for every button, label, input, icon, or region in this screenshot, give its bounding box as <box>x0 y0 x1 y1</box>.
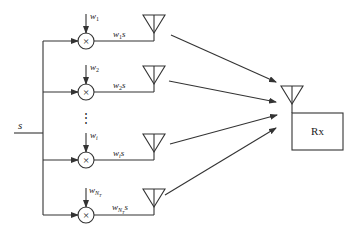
weighted-signal-label: wis <box>113 148 125 159</box>
branch-2: w2 × w2s <box>43 62 276 102</box>
input-label: s <box>18 119 22 131</box>
antenna-icon <box>143 66 165 92</box>
weighted-signal-label: w1s <box>113 29 126 40</box>
ellipsis-dots: ⋮ <box>80 111 92 125</box>
weight-label: w1 <box>90 11 99 22</box>
receiver: Rx <box>281 86 343 150</box>
svg-text:×: × <box>83 86 89 98</box>
antenna-icon <box>143 134 165 160</box>
input-signal: s <box>14 119 43 133</box>
beamforming-diagram: s w1 × w1s w2 × w2s ⋮ <box>0 0 355 234</box>
weighted-signal-label: w2s <box>113 80 126 91</box>
branch-1: w1 × w1s <box>43 11 276 82</box>
weight-label: w2 <box>90 62 99 73</box>
svg-text:×: × <box>83 35 89 47</box>
weighted-signal-label: wNTs <box>112 202 129 215</box>
svg-text:×: × <box>83 154 89 166</box>
branch-i: wi × wis <box>43 115 277 168</box>
antenna-icon <box>143 189 165 215</box>
weight-label: wNT <box>89 185 102 198</box>
antenna-icon <box>143 15 165 41</box>
weight-label: wi <box>90 130 98 141</box>
antenna-icon <box>281 86 303 113</box>
receiver-label: Rx <box>311 125 324 137</box>
svg-text:×: × <box>83 209 89 221</box>
